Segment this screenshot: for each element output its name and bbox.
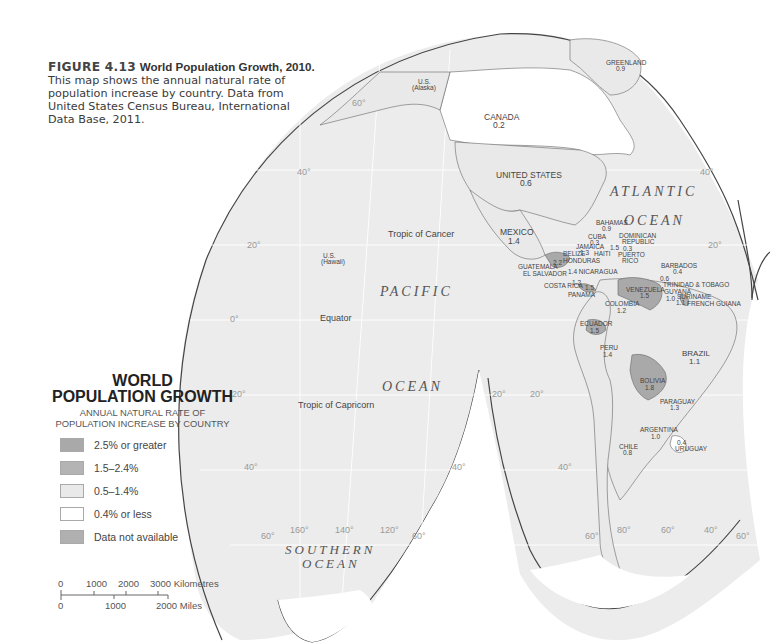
legend-label: 0.4% or less bbox=[94, 508, 152, 520]
label-ecuador: ECUADOR bbox=[580, 320, 613, 327]
label-french-guiana: FRENCH GUIANA bbox=[687, 300, 741, 307]
legend-item: 1.5–2.4% bbox=[60, 460, 245, 475]
scale-km-3000: 3000 Kilometres bbox=[150, 578, 219, 589]
map-legend: WORLD POPULATION GROWTH ANNUAL NATURAL R… bbox=[40, 373, 245, 544]
scale-mi-0: 0 bbox=[58, 600, 63, 611]
lat-label-0: 0° bbox=[230, 314, 239, 324]
value-bahamas: 0.9 bbox=[602, 225, 611, 232]
lat-label-20s-sa: 20° bbox=[530, 389, 544, 399]
ocean-label-atlantic-1: ATLANTIC bbox=[609, 184, 697, 199]
legend-item: 0.5–1.4% bbox=[60, 483, 245, 498]
lon-label-80: 80° bbox=[617, 525, 631, 535]
lat-label-40n-atl: 40° bbox=[700, 167, 714, 177]
legend-item: 2.5% or greater bbox=[60, 437, 245, 452]
legend-swatch bbox=[60, 507, 84, 521]
scale-km-1000: 1000 bbox=[86, 578, 107, 589]
lon-label-40: 40° bbox=[704, 525, 718, 535]
ocean-label-pacific-2: OCEAN bbox=[382, 379, 443, 394]
label-trinidad: TRINIDAD & TOBAGO bbox=[663, 281, 729, 288]
legend-label: Data not available bbox=[94, 531, 178, 543]
value-peru: 1.4 bbox=[603, 351, 612, 358]
scale-bar-graphic: 0 1000 2000 3000 Kilometres 0 1000 2000 … bbox=[58, 578, 228, 616]
legend-label: 1.5–2.4% bbox=[94, 462, 138, 474]
label-nicaragua: 1.4 NICARAGUA bbox=[568, 268, 618, 275]
ocean-label-southern-2: OCEAN bbox=[302, 556, 360, 571]
label-bahamas: BAHAMAS bbox=[596, 219, 628, 226]
lat-label-40s-mid: 40° bbox=[452, 462, 466, 472]
value-united-states: 0.6 bbox=[520, 178, 532, 188]
value-venezuela: 1.5 bbox=[640, 292, 649, 299]
legend-swatch bbox=[60, 530, 84, 544]
legend-item: Data not available bbox=[60, 529, 245, 544]
label-argentina: ARGENTINA bbox=[640, 426, 679, 433]
value-dominican: 1.5 bbox=[610, 244, 619, 251]
lat-label-60s-west: 60° bbox=[261, 531, 275, 541]
label-panama: PANAMA bbox=[568, 291, 596, 298]
label-puerto-rico-2: RICO bbox=[622, 257, 638, 264]
lon-label-160: 160° bbox=[290, 525, 309, 535]
legend-swatch bbox=[60, 438, 84, 452]
legend-swatch bbox=[60, 484, 84, 498]
equator-label: Equator bbox=[320, 313, 352, 323]
value-suriname: 1.1 bbox=[676, 299, 685, 306]
legend-label: 2.5% or greater bbox=[94, 439, 166, 451]
lon-label-140: 140° bbox=[335, 525, 354, 535]
value-panama: 1.5 bbox=[585, 284, 594, 291]
value-colombia: 1.2 bbox=[617, 307, 626, 314]
lat-label-40s-west: 40° bbox=[244, 462, 258, 472]
legend-subtitle-2: POPULATION INCREASE BY COUNTRY bbox=[40, 418, 245, 429]
legend-title-1: WORLD bbox=[40, 373, 245, 389]
lat-label-20s-mid: 20° bbox=[492, 389, 506, 399]
ocean-label-pacific-1: PACIFIC bbox=[379, 284, 453, 299]
label-alaska-2: (Alaska) bbox=[412, 84, 436, 92]
world-population-map: ATLANTIC OCEAN PACIFIC OCEAN SOUTHERN OC… bbox=[0, 0, 770, 644]
lat-label-60s-mid: 60° bbox=[412, 531, 426, 541]
lat-label-60s-sa: 60° bbox=[585, 531, 599, 541]
scale-bar: 0 1000 2000 3000 Kilometres 0 1000 2000 … bbox=[58, 578, 228, 618]
label-hawaii-2: (Hawaii) bbox=[321, 258, 345, 266]
label-dominican-2: REPUBLIC bbox=[622, 238, 655, 245]
lat-label-60n: 60° bbox=[352, 98, 366, 108]
lat-label-20n-atl: 20° bbox=[708, 240, 722, 250]
lat-label-40n: 40° bbox=[297, 167, 311, 177]
lat-label-60s-east: 60° bbox=[736, 531, 750, 541]
label-greenland: GREENLAND bbox=[606, 59, 647, 66]
value-chile: 0.8 bbox=[623, 449, 632, 456]
value-costa-rica: 1.2 bbox=[572, 279, 581, 286]
legend-title-2: POPULATION GROWTH bbox=[40, 389, 245, 405]
value-mexico: 1.4 bbox=[508, 236, 520, 246]
value-barbados: 0.4 bbox=[673, 268, 682, 275]
tropic-of-capricorn-label: Tropic of Capricorn bbox=[298, 400, 374, 410]
ocean-label-southern-1: SOUTHERN bbox=[285, 542, 375, 557]
value-ecuador: 1.5 bbox=[590, 327, 599, 334]
lon-label-120: 120° bbox=[380, 525, 399, 535]
tropic-of-cancer-label: Tropic of Cancer bbox=[388, 229, 454, 239]
scale-km-0: 0 bbox=[58, 578, 63, 589]
label-el-salvador: EL SALVADOR bbox=[523, 270, 567, 277]
lon-label-60: 60° bbox=[661, 525, 675, 535]
label-belize: BELIZE bbox=[563, 250, 586, 257]
lat-label-20n: 20° bbox=[247, 240, 261, 250]
scale-mi-1000: 1000 bbox=[105, 600, 126, 611]
ocean-label-atlantic-2: OCEAN bbox=[624, 213, 685, 228]
lat-label-40s-sa: 40° bbox=[558, 462, 572, 472]
value-bolivia: 1.8 bbox=[645, 384, 654, 391]
value-guatemala: 2.2 bbox=[553, 259, 562, 266]
legend-label: 0.5–1.4% bbox=[94, 485, 138, 497]
scale-km-2000: 2000 bbox=[118, 578, 139, 589]
label-colombia: COLOMBIA bbox=[605, 300, 640, 307]
label-uruguay: URUGUAY bbox=[675, 445, 708, 452]
legend-subtitle-1: ANNUAL NATURAL RATE OF bbox=[40, 407, 245, 418]
legend-item: 0.4% or less bbox=[60, 506, 245, 521]
value-canada: 0.2 bbox=[493, 120, 505, 130]
label-peru: PERU bbox=[600, 344, 618, 351]
legend-swatch bbox=[60, 461, 84, 475]
value-greenland: 0.9 bbox=[616, 65, 625, 72]
label-bolivia: BOLIVIA bbox=[640, 377, 666, 384]
value-guyana: 1.0 bbox=[666, 295, 675, 302]
value-brazil: 1.1 bbox=[689, 357, 701, 366]
scale-mi-2000: 2000 Miles bbox=[156, 600, 202, 611]
label-honduras: HONDURAS bbox=[563, 257, 601, 264]
label-haiti: HAITI bbox=[594, 250, 611, 257]
value-argentina: 1.0 bbox=[651, 433, 660, 440]
